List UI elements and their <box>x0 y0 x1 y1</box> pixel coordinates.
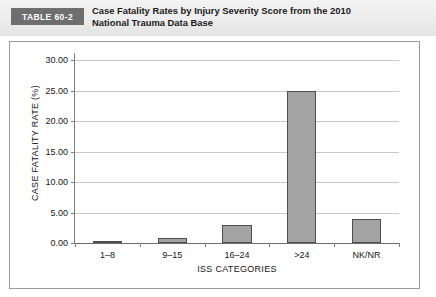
bar[interactable] <box>222 225 251 243</box>
x-tick-mark <box>334 243 335 247</box>
x-tick-label: 1–8 <box>100 250 115 260</box>
x-tick-mark <box>205 243 206 247</box>
y-tick-label: 5.00 <box>50 208 68 218</box>
bars-layer <box>75 60 399 243</box>
bar[interactable] <box>287 91 316 244</box>
y-tick-label: 25.00 <box>45 86 68 96</box>
table-number-badge: TABLE 60-2 <box>11 8 84 25</box>
table-number-label: TABLE 60-2 <box>22 12 73 22</box>
y-tick-label: 15.00 <box>45 147 68 157</box>
y-tick-label: 20.00 <box>45 116 68 126</box>
table-title-line-1: Case Fatality Rates by Injury Severity S… <box>92 5 422 17</box>
bar-slot <box>140 60 205 243</box>
x-tick-mark <box>140 243 141 247</box>
y-tick-label: 30.00 <box>45 55 68 65</box>
x-tick-label: 16–24 <box>224 250 249 260</box>
bar-slot <box>205 60 270 243</box>
x-axis-line <box>74 243 400 244</box>
y-tick-label: 10.00 <box>45 177 68 187</box>
bar-slot <box>334 60 399 243</box>
bar[interactable] <box>352 219 381 243</box>
y-axis-title: CASE FATALITY RATE (%) <box>30 73 40 213</box>
x-tick-mark <box>75 243 76 247</box>
bar-chart: CASE FATALITY RATE (%) 0.005.0010.0015.0… <box>10 42 419 288</box>
x-tick-mark <box>399 243 400 247</box>
x-tick-label: 9–15 <box>162 250 182 260</box>
figure-frame: CASE FATALITY RATE (%) 0.005.0010.0015.0… <box>9 41 420 289</box>
table-header-band: TABLE 60-2 Case Fatality Rates by Injury… <box>0 0 436 36</box>
bar[interactable] <box>158 238 187 243</box>
table-title-line-2: National Trauma Data Base <box>92 17 422 29</box>
x-axis-title: ISS CATEGORIES <box>75 264 399 274</box>
bar-slot <box>75 60 140 243</box>
x-tick-label: NK/NR <box>353 250 381 260</box>
x-tick-mark <box>269 243 270 247</box>
bar-slot <box>269 60 334 243</box>
bar[interactable] <box>93 241 122 243</box>
y-tick-label: 0.00 <box>50 238 68 248</box>
table-title: Case Fatality Rates by Injury Severity S… <box>92 5 422 29</box>
plot-area: 0.005.0010.0015.0020.0025.0030.00 1–89–1… <box>75 60 399 243</box>
x-tick-label: >24 <box>294 250 309 260</box>
